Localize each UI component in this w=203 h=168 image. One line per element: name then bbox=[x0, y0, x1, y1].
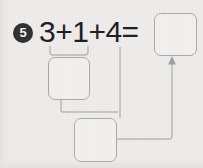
connector-partial2-to-answer bbox=[117, 62, 172, 139]
equation-text: 3+1+4= bbox=[39, 16, 139, 48]
connector-partial1-to-partial2 bbox=[61, 100, 118, 112]
worksheet-canvas: 5 3+1+4= bbox=[0, 0, 203, 168]
answer-box-partial-sum-1[interactable] bbox=[48, 57, 90, 100]
paper-edge-shading-bottom bbox=[0, 161, 203, 168]
answer-box-total[interactable] bbox=[154, 13, 197, 56]
arrowhead-up-icon bbox=[168, 56, 176, 65]
problem-number-badge: 5 bbox=[13, 23, 33, 43]
paper-edge-shading-left bbox=[0, 0, 8, 168]
answer-box-partial-sum-2[interactable] bbox=[74, 118, 117, 162]
